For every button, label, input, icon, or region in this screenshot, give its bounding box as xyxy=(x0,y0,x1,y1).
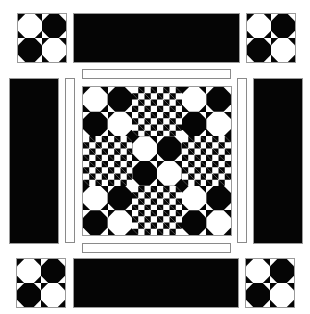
checkerboard-block xyxy=(108,161,133,186)
black-octagon-icon xyxy=(132,161,157,186)
checkerboard-block xyxy=(157,186,182,211)
black-octagon-icon xyxy=(247,38,271,62)
white-octagon-icon xyxy=(246,259,270,283)
white-octagon-icon xyxy=(42,38,66,62)
black-octagon-icon xyxy=(182,112,207,137)
black-octagon-icon xyxy=(83,210,108,235)
white-octagon-icon xyxy=(108,210,133,235)
white-octagon-icon xyxy=(108,112,133,137)
black-octagon-icon xyxy=(246,283,270,307)
sashing-right xyxy=(237,78,247,243)
black-octagon-icon xyxy=(270,259,294,283)
black-octagon-icon xyxy=(206,87,231,112)
checkerboard-block xyxy=(206,136,231,161)
sashing-left xyxy=(65,78,75,243)
border-bar-top xyxy=(73,13,240,63)
checkerboard-block xyxy=(132,112,157,137)
checkerboard-block xyxy=(108,136,133,161)
white-octagon-icon xyxy=(41,283,65,307)
checkerboard-block xyxy=(132,87,157,112)
white-octagon-icon xyxy=(83,186,108,211)
black-octagon-icon xyxy=(18,38,42,62)
sashing-top xyxy=(82,69,231,79)
corner-block-top-right xyxy=(246,13,296,63)
border-bar-bottom xyxy=(73,258,239,308)
black-octagon-icon xyxy=(17,283,41,307)
black-octagon-icon xyxy=(206,186,231,211)
checkerboard-block xyxy=(182,161,207,186)
corner-block-bottom-left xyxy=(16,258,66,308)
white-octagon-icon xyxy=(132,136,157,161)
white-octagon-icon xyxy=(157,161,182,186)
black-octagon-icon xyxy=(182,210,207,235)
corner-block-top-left xyxy=(17,13,67,63)
white-octagon-icon xyxy=(206,210,231,235)
white-octagon-icon xyxy=(206,112,231,137)
checkerboard-block xyxy=(182,136,207,161)
black-octagon-icon xyxy=(108,186,133,211)
checkerboard-block xyxy=(206,161,231,186)
white-octagon-icon xyxy=(247,14,271,38)
white-octagon-icon xyxy=(182,186,207,211)
checkerboard-block xyxy=(83,161,108,186)
white-octagon-icon xyxy=(182,87,207,112)
black-octagon-icon xyxy=(157,136,182,161)
white-octagon-icon xyxy=(270,283,294,307)
black-octagon-icon xyxy=(108,87,133,112)
checkerboard-block xyxy=(132,210,157,235)
black-octagon-icon xyxy=(42,14,66,38)
white-octagon-icon xyxy=(83,87,108,112)
black-octagon-icon xyxy=(41,259,65,283)
checkerboard-block xyxy=(157,112,182,137)
checkerboard-block xyxy=(132,186,157,211)
sashing-bottom xyxy=(82,243,231,253)
corner-block-bottom-right xyxy=(245,258,295,308)
checkerboard-block xyxy=(83,136,108,161)
white-octagon-icon xyxy=(18,14,42,38)
white-octagon-icon xyxy=(17,259,41,283)
checkerboard-block xyxy=(157,210,182,235)
checkerboard-block xyxy=(157,87,182,112)
black-octagon-icon xyxy=(271,14,295,38)
border-bar-left xyxy=(9,78,59,244)
border-bar-right xyxy=(253,78,303,244)
center-quilt xyxy=(82,86,232,236)
black-octagon-icon xyxy=(83,112,108,137)
white-octagon-icon xyxy=(271,38,295,62)
